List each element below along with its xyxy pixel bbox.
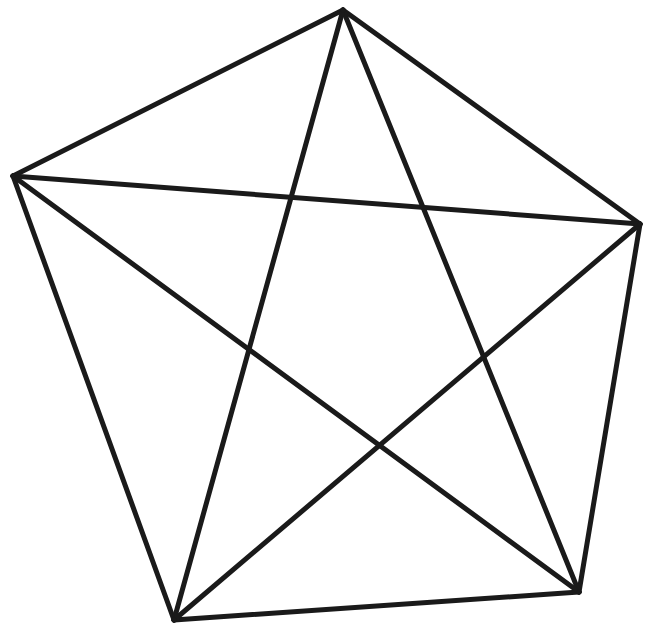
pentagon-side-CD xyxy=(174,592,579,620)
diagonal-BE xyxy=(13,176,640,224)
pentagon-pentagram-svg xyxy=(0,0,653,641)
vertex-E xyxy=(11,174,16,179)
pentagon-side-BC xyxy=(579,224,640,592)
vertex-A xyxy=(341,8,346,13)
pentagon-side-EA xyxy=(13,10,343,176)
vertex-C xyxy=(577,590,582,595)
pentagon-diagram xyxy=(0,0,653,641)
vertex-B xyxy=(638,222,643,227)
vertex-D xyxy=(172,618,177,623)
edges-group xyxy=(11,8,643,623)
pentagon-side-DE xyxy=(13,176,174,620)
diagonal-BD xyxy=(174,224,640,620)
